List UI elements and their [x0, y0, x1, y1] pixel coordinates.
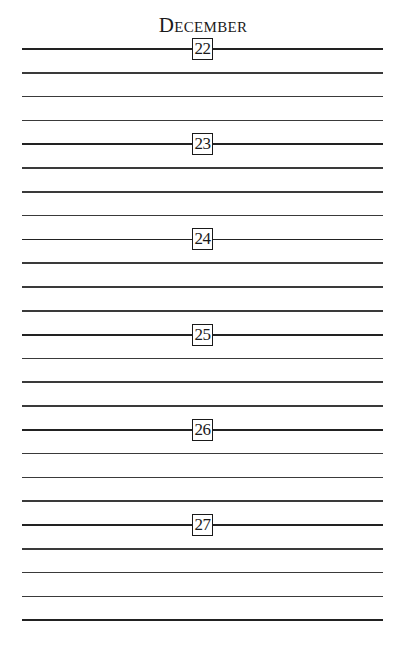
writing-line[interactable]: [22, 96, 383, 98]
writing-line[interactable]: [22, 477, 383, 479]
writing-line[interactable]: [22, 500, 383, 502]
writing-line[interactable]: [22, 262, 383, 264]
writing-line[interactable]: [22, 453, 383, 455]
date-box: 23: [192, 133, 213, 155]
writing-line[interactable]: [22, 167, 383, 169]
writing-line[interactable]: [22, 572, 383, 574]
writing-line[interactable]: [22, 120, 383, 122]
date-box: 22: [192, 38, 213, 60]
writing-line[interactable]: [22, 286, 383, 288]
writing-line[interactable]: [22, 596, 383, 598]
writing-line[interactable]: [22, 358, 383, 360]
date-box: 24: [192, 228, 213, 250]
writing-line[interactable]: [22, 191, 383, 193]
writing-line[interactable]: [22, 381, 383, 383]
bottom-rule-line: [22, 619, 383, 621]
month-title: December: [0, 13, 406, 37]
writing-line[interactable]: [22, 310, 383, 312]
writing-line[interactable]: [22, 548, 383, 550]
writing-line[interactable]: [22, 72, 383, 74]
writing-line[interactable]: [22, 215, 383, 217]
date-box: 26: [192, 419, 213, 441]
date-box: 27: [192, 514, 213, 536]
date-box: 25: [192, 324, 213, 346]
writing-line[interactable]: [22, 405, 383, 407]
